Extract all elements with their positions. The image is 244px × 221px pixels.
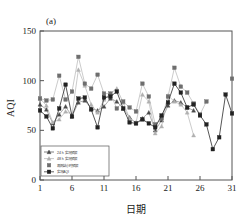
data-point-marker [205,100,209,104]
data-point-marker [121,100,125,104]
data-point-marker [77,55,81,59]
data-point-marker [134,110,138,114]
y-tick-label: 0 [32,175,37,185]
data-point-marker [96,73,100,77]
data-point-marker [45,115,49,119]
data-point-marker [153,126,157,130]
data-point-marker [141,118,145,122]
data-point-marker [83,96,87,100]
y-tick-label: 150 [23,26,37,36]
data-point-marker [147,122,151,126]
x-tick-label: 26 [196,183,206,193]
data-point-marker [128,106,132,110]
legend-label: 实况AQI [57,169,69,174]
legend-label: 观测站小时预报 [57,163,79,168]
data-point-marker [179,91,183,95]
data-point-marker [38,97,42,101]
legend-marker [47,170,51,174]
data-point-marker [211,147,215,151]
x-axis-title: 日期 [126,204,146,215]
legend-label: 24 h 实况预报 [57,150,78,155]
data-point-marker [70,115,74,119]
y-axis-title: AQI [5,99,16,117]
data-point-marker [51,98,55,102]
legend-item-1: 24 h 实况预报 [44,150,78,155]
x-tick-label: 31 [228,183,237,193]
chart-container: 050100150 161116212631 (a) AQI 日期 24 h 实… [0,0,244,221]
data-point-marker [185,91,189,95]
data-point-marker [64,98,68,102]
x-tick-label: 21 [164,183,173,193]
data-point-marker [89,108,93,112]
data-point-marker [173,66,177,70]
data-point-marker [185,106,189,110]
data-point-marker [230,112,234,116]
y-tick-label: 100 [23,76,37,86]
data-point-marker [166,101,170,105]
panel-label: (a) [46,16,56,26]
data-point-marker [217,135,221,139]
data-point-marker [64,83,68,87]
data-point-marker [198,114,202,118]
data-point-marker [51,127,55,131]
data-point-marker [57,74,61,78]
data-point-marker [102,92,106,96]
data-point-marker [102,96,106,100]
data-point-marker [147,95,151,99]
data-point-marker [134,122,138,126]
y-tick-label: 50 [27,125,37,135]
data-point-marker [141,82,145,86]
data-point-marker [160,114,164,118]
data-point-marker [83,82,87,86]
legend-item-2: 48 h 实况预报 [44,156,78,161]
data-point-marker [205,123,209,127]
x-tick-label: 1 [38,183,43,193]
data-point-marker [115,90,119,94]
data-point-marker [115,107,119,111]
x-tick-label: 11 [100,183,109,193]
data-point-marker [121,107,125,111]
x-tick-label: 6 [70,183,75,193]
data-point-marker [109,95,113,99]
legend: 24 h 实况预报48 h 实况预报观测站小时预报实况AQI [41,146,109,176]
data-point-marker [173,82,177,86]
data-point-marker [179,85,183,89]
aqi-forecast-line-chart: 050100150 161116212631 (a) AQI 日期 24 h 实… [0,0,244,221]
data-point-marker [38,109,42,113]
data-point-marker [230,77,234,81]
data-point-marker [224,93,228,97]
legend-marker [47,163,51,167]
legend-item-4: 实况AQI [44,169,69,174]
data-point-marker [57,107,61,111]
legend-label: 48 h 实况预报 [57,156,78,161]
data-point-marker [89,87,93,91]
data-point-marker [70,90,74,94]
data-point-marker [45,99,49,103]
data-point-marker [128,121,132,125]
x-tick-label: 16 [132,183,142,193]
data-point-marker [96,126,100,130]
data-point-marker [192,103,196,107]
data-point-marker [77,97,81,101]
